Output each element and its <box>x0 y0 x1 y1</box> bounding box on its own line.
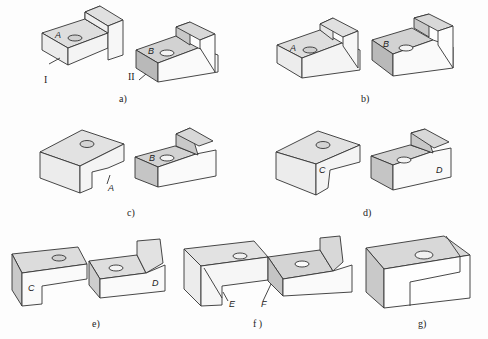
face-label-D-e: D <box>152 278 159 288</box>
caption-b: b) <box>361 93 369 104</box>
face-label-A-a: A <box>55 30 61 40</box>
face-label-B-c: B <box>149 153 155 163</box>
face-label-E: E <box>229 299 235 309</box>
panel-e-block-2 <box>89 239 165 298</box>
face-label-D-d: D <box>436 165 443 175</box>
leader-II <box>139 74 146 80</box>
face-label-C-d: C <box>319 165 326 175</box>
panel-f-block-1 <box>184 241 268 306</box>
caption-d: d) <box>363 207 371 218</box>
figure-canvas <box>0 0 488 339</box>
leader-E <box>223 292 228 301</box>
face-label-B-a: B <box>148 46 154 56</box>
leader-I <box>49 58 60 64</box>
face-label-A-c: A <box>108 183 114 193</box>
caption-c: c) <box>127 207 135 218</box>
caption-e: e) <box>92 318 100 329</box>
roman-label-I: I <box>44 74 47 85</box>
face-label-A-b: A <box>290 43 296 53</box>
caption-g: g) <box>418 318 426 329</box>
panel-f-block-2 <box>268 236 352 296</box>
panel-c-block-2 <box>135 128 216 187</box>
caption-a: a) <box>119 93 127 104</box>
caption-f: f ) <box>253 318 262 329</box>
face-label-B-b: B <box>383 39 389 49</box>
panel-d-block-1 <box>276 131 360 195</box>
roman-label-II: II <box>128 71 135 82</box>
panel-e-block-1 <box>12 247 87 306</box>
face-label-F: F <box>261 299 267 309</box>
panel-d-block-2 <box>371 129 451 190</box>
face-label-C-e: C <box>28 283 35 293</box>
panel-g-block <box>366 236 470 308</box>
